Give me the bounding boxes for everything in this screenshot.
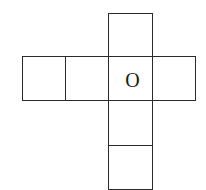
net-square-below-1 <box>108 100 153 146</box>
net-square-row-4 <box>152 56 196 101</box>
net-square-below-2 <box>108 145 153 190</box>
net-square-top <box>108 13 153 57</box>
square-label-o: O <box>125 70 139 90</box>
net-square-row-3: O <box>108 56 153 101</box>
net-square-row-2 <box>65 56 109 101</box>
net-square-row-1 <box>22 56 66 101</box>
